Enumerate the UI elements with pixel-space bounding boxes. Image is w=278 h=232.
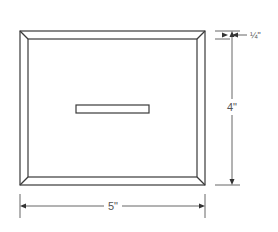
center-slot: [76, 105, 149, 113]
arrow-up-icon: [230, 31, 235, 37]
panel-frame: [20, 31, 205, 185]
outer-frame: [20, 31, 205, 185]
technical-drawing: 4" 5" ¼": [0, 0, 278, 232]
arrow-left-icon: [20, 204, 26, 209]
width-label: 5": [108, 200, 118, 212]
bevel-top-left: [20, 31, 28, 39]
bevel-top-right: [197, 31, 205, 39]
bevel-bottom-left: [20, 177, 28, 185]
border-dimension: [222, 33, 247, 38]
height-label: 4": [227, 101, 237, 113]
border-label: ¼": [250, 30, 261, 40]
bevel-bottom-right: [197, 177, 205, 185]
inner-frame: [28, 39, 197, 177]
arrow-right-icon: [222, 33, 228, 38]
arrow-right-icon: [199, 204, 205, 209]
arrow-down-icon: [230, 179, 235, 185]
